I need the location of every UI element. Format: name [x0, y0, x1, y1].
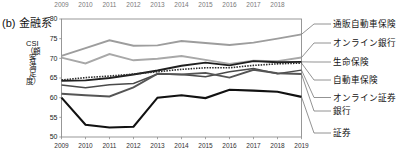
x-axis-tick-label-bottom: 2019 [294, 142, 309, 149]
legend-label-4[interactable]: オンライン証券 [333, 92, 396, 103]
legend-label-5[interactable]: 銀行 [333, 105, 351, 116]
y-axis-tick-label: 65 [50, 74, 58, 81]
x-axis-tick-label-bottom: 2015 [198, 142, 213, 149]
legend-leader-line-0 [302, 24, 332, 34]
y-axis-tick-label: 75 [50, 35, 58, 42]
legend-leader-line-1 [302, 43, 332, 58]
figure-caption: (b) 金融系 [2, 14, 52, 30]
x-axis-tick-label-bottom: 2010 [78, 142, 93, 149]
series-line-0 [62, 34, 302, 56]
x-axis-tick-label-top: 2014 [174, 1, 189, 8]
x-axis-tick-label-bottom: 2018 [270, 142, 285, 149]
x-axis-tick-label-bottom: 2013 [150, 142, 165, 149]
x-axis-tick-label-top: 2009 [54, 1, 69, 8]
x-axis-tick-label-bottom: 2009 [54, 142, 69, 149]
x-axis-tick-label-top: 2011 [103, 1, 117, 8]
legend-label-0[interactable]: 通販自動車保険 [333, 18, 396, 29]
y-axis-tick-label: 55 [50, 114, 58, 121]
legend-leader-line-6 [302, 97, 332, 133]
x-axis-tick-label-bottom: 2017 [246, 142, 261, 149]
legend-leader-line-4 [302, 70, 332, 97]
x-axis-tick-label-bottom: 2014 [174, 142, 189, 149]
x-axis-tick-label-top: 2018 [270, 1, 285, 8]
legend-leader-line-3 [302, 63, 332, 80]
x-axis-tick-label-bottom: 2011 [103, 142, 117, 149]
legend-label-3[interactable]: 自動車保険 [333, 74, 378, 85]
series-line-5 [62, 70, 302, 97]
x-axis-tick-label-top: 2015 [198, 1, 213, 8]
x-axis-tick-label-top: 2010 [78, 1, 93, 8]
x-axis-tick-label-top: 2016 [222, 1, 237, 8]
legend-label-6[interactable]: 証券 [333, 127, 351, 138]
x-axis-tick-label-bottom: 2012 [126, 142, 141, 149]
x-axis-tick-label-top: 2013 [150, 1, 165, 8]
x-axis-tick-label-top: 2012 [126, 1, 141, 8]
x-axis-tick-label-top: 2017 [246, 1, 261, 8]
legend-label-1[interactable]: オンライン銀行 [333, 37, 396, 48]
y-axis-tick-label: 50 [50, 133, 58, 140]
y-axis-title: CSI（顧客満足度） [26, 40, 38, 86]
y-axis-tick-label: 70 [50, 55, 58, 62]
x-axis-tick-label-bottom: 2016 [222, 142, 237, 149]
line-chart-canvas: 8075706560555020092010201120122013201420… [0, 0, 412, 156]
y-axis-tick-label: 60 [50, 94, 58, 101]
figure-financial-csi: (b) 金融系 CSI（顧客満足度） 807570656055502009201… [0, 0, 412, 156]
plot-frame [62, 19, 302, 137]
legend-label-2[interactable]: 生命保険 [333, 56, 369, 67]
